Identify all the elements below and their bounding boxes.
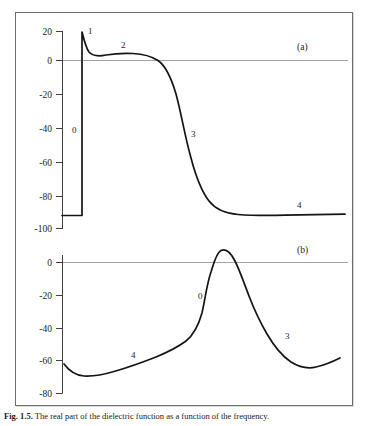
- panel-a-point-label-3: 3: [191, 129, 196, 139]
- panel-b-label: (b): [297, 245, 308, 256]
- panel-b-curve: [64, 250, 340, 376]
- panel-b-ytick-label-3: -60: [39, 356, 52, 366]
- panel-b: 0 -20 -40 -60 -80 0 3 4 (b): [39, 245, 348, 399]
- panel-a-ytick-label-6: -100: [35, 224, 53, 234]
- panel-a-curve: [62, 32, 345, 216]
- panel-b-point-label-1: 3: [285, 331, 290, 341]
- panel-a-ytick-label-5: -80: [39, 192, 52, 202]
- panel-b-ytick-label-0: 0: [47, 258, 52, 268]
- panel-a-point-label-0: 0: [72, 125, 77, 135]
- panel-b-ticks: [56, 263, 63, 394]
- panel-a-ytick-label-2: -20: [39, 90, 52, 100]
- panel-b-ytick-label-1: -20: [39, 291, 52, 301]
- figure-container: 20 0 -20 -40 -60 -80 -100 0 1 2 3 4 (a): [0, 0, 372, 426]
- panel-a-ytick-label-4: -60: [39, 158, 52, 168]
- panel-a-point-label-1: 1: [88, 26, 93, 36]
- panel-a-ticks: [56, 32, 63, 229]
- panel-b-ytick-label-4: -80: [39, 389, 52, 399]
- panel-b-point-label-2: 4: [131, 350, 136, 360]
- panel-a-point-label-4: 4: [297, 200, 302, 210]
- panel-b-point-label-0: 0: [198, 291, 203, 301]
- figure-caption-label: Fig. 1.5.: [4, 411, 33, 421]
- panel-a-point-label-2: 2: [121, 40, 126, 50]
- panel-a-ytick-label-3: -40: [39, 124, 52, 134]
- figure-caption: Fig. 1.5. The real part of the dielectri…: [4, 411, 368, 425]
- panel-b-ytick-label-2: -40: [39, 324, 52, 334]
- figure-caption-text: The real part of the dielectric function…: [35, 411, 269, 421]
- panel-a-label: (a): [297, 42, 308, 53]
- figure-plot-area: 20 0 -20 -40 -60 -80 -100 0 1 2 3 4 (a): [0, 0, 372, 426]
- panel-a-ytick-label-1: 0: [47, 56, 52, 66]
- panel-a-ytick-label-0: 20: [43, 27, 53, 37]
- panel-a: 20 0 -20 -40 -60 -80 -100 0 1 2 3 4 (a): [35, 26, 348, 234]
